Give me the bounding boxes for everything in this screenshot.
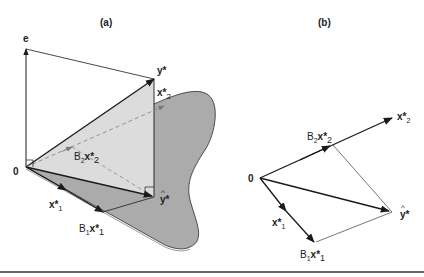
label-x2-star-b: x*2 [397, 111, 410, 124]
label-origin-b: 0 [248, 173, 254, 184]
label-x2-star: x*2 [157, 87, 171, 101]
projection-triangle [26, 79, 154, 197]
label-b2x2-b: B2x*2 [307, 131, 332, 145]
label-e: e [23, 33, 29, 44]
panel-a-title: (a) [100, 17, 112, 28]
label-y-star: y* [157, 65, 167, 76]
panel-a: (a) e y* x*2 B2x*2 [13, 17, 215, 251]
x1-star-vector-b [260, 178, 286, 211]
bottom-rule [0, 271, 424, 273]
label-y-hat-star: y* [160, 194, 170, 205]
label-b1x1: B1x*1 [79, 223, 104, 237]
label-x1-star: x*1 [49, 199, 62, 212]
label-y-hat-star-b: y* [400, 209, 410, 220]
b2x2-marker-b [300, 146, 330, 160]
label-b1x1-b: B1x*1 [300, 249, 325, 263]
panel-b: (b) 0 x*2 B2x*2 x*1 B1x*1 ^ y* [248, 17, 410, 263]
y-hat-vector-b [260, 178, 389, 211]
regression-geometry-figure: (a) e y* x*2 B2x*2 [0, 0, 424, 277]
b1x1-to-yhat-b [316, 212, 392, 242]
label-x1-star-b: x*1 [272, 217, 285, 230]
e-to-y-line [26, 49, 154, 79]
b2x2-to-yhat-b [333, 145, 392, 212]
label-origin: 0 [13, 166, 19, 177]
b1x1-vector-b [286, 211, 314, 242]
panel-b-title: (b) [318, 17, 331, 28]
